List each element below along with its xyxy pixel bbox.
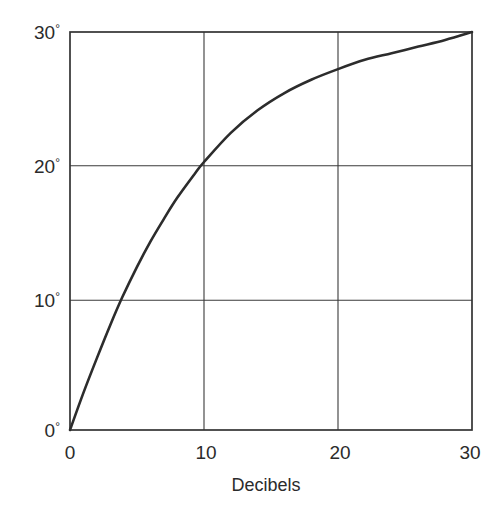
degree-symbol-0: ° [55,420,60,434]
x-tick-label-10: 10 [195,442,216,463]
degree-symbol-30: ° [55,22,60,36]
y-tick-label-20: 20° [34,156,60,177]
y-axis-tick-labels: 30° 20° 10° 0° [34,22,60,441]
plot-background [70,32,472,430]
x-tick-label-20: 20 [329,442,350,463]
chart-canvas: 30° 20° 10° 0° 0 10 20 30 Decibels [0,0,503,511]
y-tick-label-10: 10° [34,290,60,311]
y-tick-30-number: 30 [34,22,55,43]
y-tick-20-number: 20 [34,156,55,177]
degree-symbol-10: ° [55,290,60,304]
y-tick-10-number: 10 [34,290,55,311]
x-tick-label-0: 0 [65,442,76,463]
chart-figure: 30° 20° 10° 0° 0 10 20 30 Decibels [0,0,503,511]
y-tick-label-0: 0° [45,420,61,441]
y-tick-0-number: 0 [45,420,56,441]
x-axis-tick-labels: 0 10 20 30 [65,442,481,463]
degree-symbol-20: ° [55,156,60,170]
y-tick-label-30: 30° [34,22,60,43]
x-tick-label-30: 30 [459,442,480,463]
x-axis-title: Decibels [231,475,300,495]
